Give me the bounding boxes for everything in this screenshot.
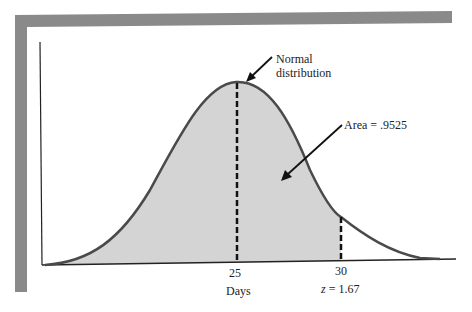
z-value: = 1.67 [326,282,360,296]
z-score-label: z = 1.67 [321,282,359,297]
normal-arrow-icon [246,57,272,82]
normal-label-line1: Normal [276,52,331,66]
tick-label-25: 25 [229,266,241,281]
y-axis [40,42,42,265]
normal-label-line2: distribution [276,66,331,80]
x-axis-label: Days [226,284,251,299]
area-label: Area = .9525 [344,118,407,133]
normal-distribution-label: Normal distribution [276,52,331,80]
tick-label-30: 30 [335,264,347,279]
shaded-area [45,82,341,265]
